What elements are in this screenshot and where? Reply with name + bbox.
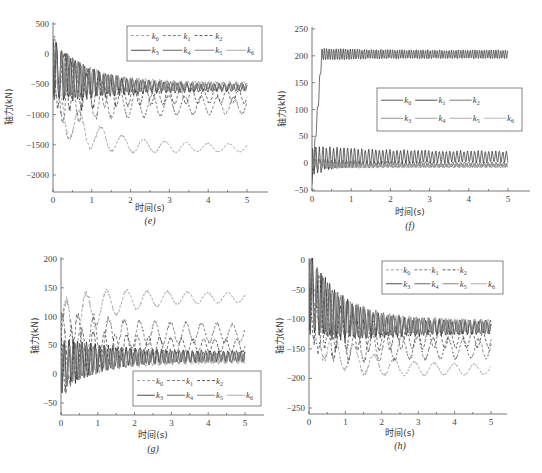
panel-label: (e) — [144, 215, 156, 227]
x-tick-label: 1 — [96, 418, 101, 428]
x-tick-label: 4 — [467, 194, 472, 204]
x-tick-label: 3 — [169, 418, 174, 428]
x-tick-label: 4 — [452, 417, 457, 427]
y-tick-label: 150 — [295, 78, 309, 88]
y-tick-label: 0 — [304, 158, 309, 168]
y-tick-label: −50 — [294, 185, 309, 195]
y-tick-label: 100 — [295, 105, 309, 115]
x-axis-label: 时间(s) — [385, 427, 415, 438]
y-axis-label: 轴力(kN) — [276, 91, 287, 128]
x-tick-label: 1 — [90, 195, 95, 205]
y-tick-label: −500 — [30, 79, 49, 89]
x-tick-label: 4 — [206, 195, 211, 205]
y-tick-label: −150 — [286, 344, 305, 354]
panel-label: (g) — [147, 443, 159, 455]
x-tick-label: 0 — [310, 194, 315, 204]
x-tick-label: 3 — [427, 194, 432, 204]
y-tick-label: −200 — [286, 373, 305, 383]
x-tick-label: 2 — [388, 194, 393, 204]
chart-panel-e: 0123455000−500−1000−1500−2000时间(s)轴力(kN)… — [3, 19, 268, 227]
y-tick-label: −100 — [286, 314, 305, 324]
y-tick-label: 200 — [295, 51, 309, 61]
x-tick-label: 0 — [59, 418, 64, 428]
y-tick-label: 100 — [44, 312, 58, 322]
y-tick-label: 50 — [299, 131, 309, 141]
x-tick-label: 0 — [51, 195, 56, 205]
chart-panel-h: 0123450−50−100−150−200−250时间(s)轴力(kN)(h)… — [274, 255, 507, 452]
x-tick-label: 5 — [506, 194, 511, 204]
figure-canvas: 0123455000−500−1000−1500−2000时间(s)轴力(kN)… — [0, 0, 542, 473]
y-tick-label: −250 — [286, 403, 305, 413]
y-tick-label: −50 — [43, 398, 58, 408]
x-tick-label: 3 — [167, 195, 172, 205]
y-tick-label: 250 — [295, 24, 309, 34]
x-tick-label: 3 — [416, 417, 421, 427]
chart-panel-f: 012345250200150100500−50时间(s)轴力(kN)(f)k0… — [276, 24, 530, 232]
x-tick-label: 5 — [489, 417, 494, 427]
y-tick-label: −50 — [291, 285, 306, 295]
y-tick-label: 0 — [45, 49, 50, 59]
y-tick-label: 0 — [53, 369, 58, 379]
y-tick-label: −1500 — [26, 140, 50, 150]
x-tick-label: 2 — [132, 418, 137, 428]
legend: k0k1k2k3k4k5k6 — [382, 261, 503, 294]
y-tick-label: 50 — [48, 340, 58, 350]
x-axis-label: 时间(s) — [138, 429, 168, 440]
x-tick-label: 5 — [245, 195, 250, 205]
x-tick-label: 0 — [307, 417, 312, 427]
x-tick-label: 2 — [380, 417, 385, 427]
panel-label: (f) — [405, 220, 415, 232]
y-tick-label: 0 — [301, 255, 306, 265]
legend: k0k1k2k3k4k5k6 — [127, 26, 262, 61]
y-tick-label: 500 — [36, 19, 50, 29]
x-axis-label: 时间(s) — [395, 206, 425, 217]
legend: k0k1k2k3k4k5k6 — [133, 371, 261, 406]
x-axis-label: 时间(s) — [135, 202, 165, 213]
y-tick-label: −2000 — [26, 170, 50, 180]
y-axis-label: 轴力(kN) — [274, 318, 285, 355]
x-tick-label: 4 — [206, 418, 211, 428]
legend: k0k1k2k3k4k5k6 — [377, 88, 522, 131]
y-axis-label: 轴力(kN) — [3, 89, 14, 126]
y-axis-label: 轴力(kN) — [29, 318, 40, 355]
x-tick-label: 1 — [349, 194, 354, 204]
x-tick-label: 1 — [343, 417, 348, 427]
y-tick-label: −1000 — [26, 110, 50, 120]
chart-panel-g: 012345200150100500−50时间(s)轴力(kN)(g)k0k1k… — [29, 254, 264, 455]
y-tick-label: 150 — [44, 283, 58, 293]
x-tick-label: 2 — [128, 195, 133, 205]
x-tick-label: 5 — [243, 418, 248, 428]
y-tick-label: 200 — [44, 254, 58, 264]
panel-label: (h) — [394, 440, 406, 452]
